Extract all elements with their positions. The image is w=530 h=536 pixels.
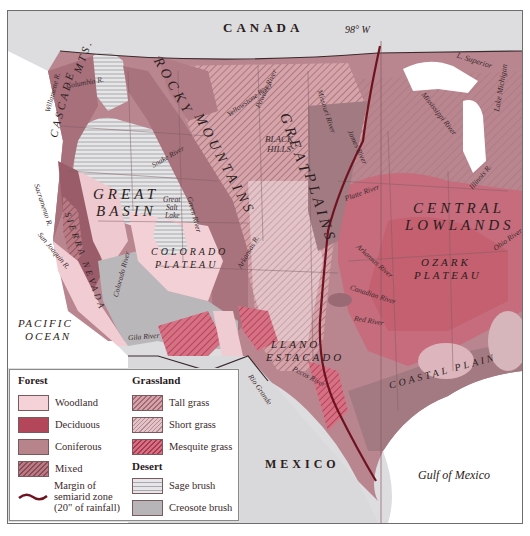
legend-grassland-group: Grassland Tall grass Short grass Mesquit… <box>132 374 236 519</box>
legend-item-sage-brush: Sage brush <box>132 475 236 496</box>
swatch-short-grass <box>132 417 163 433</box>
legend-item-tall-grass: Tall grass <box>132 392 236 413</box>
legend-label: Creosote brush <box>169 502 232 513</box>
legend-forest-group: Forest Woodland Deciduous Coniferous Mix… <box>18 374 128 513</box>
margin-line-3: (20" of rainfall) <box>54 502 120 513</box>
wavy-line-icon <box>18 490 48 504</box>
label-great-basin-1: GREAT <box>93 187 159 202</box>
legend-label: Coniferous <box>55 441 102 452</box>
label-black-hills-2: HILLS <box>267 145 291 154</box>
legend-forest-heading: Forest <box>18 374 128 386</box>
margin-line-2: semiarid zone <box>54 491 113 502</box>
legend-label: Mixed <box>55 463 82 474</box>
legend-item-mixed: Mixed <box>18 458 128 479</box>
legend-item-coniferous: Coniferous <box>18 436 128 457</box>
label-pacific-1: PACIFIC <box>18 318 73 329</box>
label-gulf-of-mexico: Gulf of Mexico <box>418 469 490 481</box>
label-great-basin-2: BASIN <box>96 204 157 219</box>
margin-line-1: Margin of <box>54 480 96 491</box>
label-llano-1: LLANO <box>271 339 320 350</box>
legend-margin-text: Margin of semiarid zone (20" of rainfall… <box>54 480 120 513</box>
legend-item-deciduous: Deciduous <box>18 414 128 435</box>
map-legend: Forest Woodland Deciduous Coniferous Mix… <box>9 369 239 521</box>
legend-item-short-grass: Short grass <box>132 414 236 435</box>
legend-item-creosote-brush: Creosote brush <box>132 497 236 518</box>
label-central-1: CENTRAL <box>413 201 505 216</box>
label-pacific-2: OCEAN <box>25 331 71 342</box>
label-mexico: MEXICO <box>265 458 340 470</box>
swatch-woodland <box>18 395 49 411</box>
legend-label: Sage brush <box>169 480 215 491</box>
legend-desert-heading: Desert <box>132 460 236 472</box>
label-ozark-2: PLATEAU <box>414 270 482 281</box>
swatch-sage-brush <box>132 478 163 494</box>
legend-item-semiarid-margin: Margin of semiarid zone (20" of rainfall… <box>18 480 128 513</box>
swatch-mesquite-grass <box>132 439 163 455</box>
legend-item-mesquite-grass: Mesquite grass <box>132 436 236 457</box>
swatch-deciduous <box>18 417 49 433</box>
label-great-salt-3: Lake <box>165 212 180 220</box>
legend-label: Deciduous <box>55 419 100 430</box>
label-llano-2: ESTACADO <box>266 352 344 363</box>
swatch-creosote-brush <box>132 500 163 516</box>
label-central-2: LOWLANDS <box>405 218 515 233</box>
swatch-tall-grass <box>132 395 163 411</box>
label-meridian: 98° W <box>345 25 370 35</box>
legend-grassland-heading: Grassland <box>132 374 236 386</box>
legend-item-woodland: Woodland <box>18 392 128 413</box>
legend-label: Mesquite grass <box>169 441 232 452</box>
swatch-mixed <box>18 461 49 477</box>
label-colorado-1: COLORADO <box>151 247 228 257</box>
label-colorado-2: PLATEAU <box>155 260 218 270</box>
legend-label: Woodland <box>55 397 98 408</box>
swatch-coniferous <box>18 439 49 455</box>
legend-label: Tall grass <box>169 397 209 408</box>
label-canada: CANADA <box>223 21 303 34</box>
label-black-hills-1: BLACK <box>265 135 293 144</box>
legend-label: Short grass <box>169 419 216 430</box>
label-ozark-1: OZARK <box>421 257 471 268</box>
